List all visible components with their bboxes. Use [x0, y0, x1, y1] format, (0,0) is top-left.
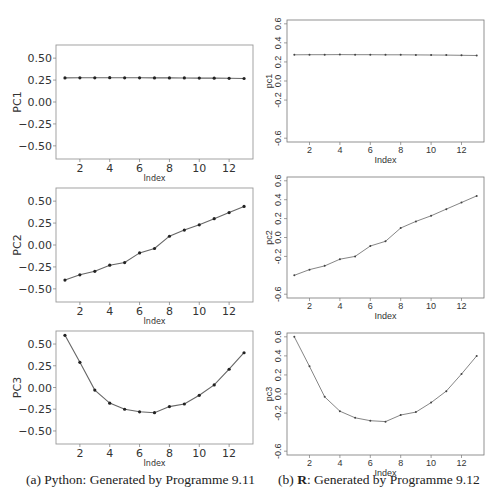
data-point — [385, 240, 387, 242]
data-point — [400, 414, 402, 416]
data-point — [430, 402, 432, 404]
y-axis-label: PC1 — [11, 91, 24, 112]
y-tick-label: 0.6 — [273, 175, 283, 188]
data-point — [430, 54, 432, 56]
x-tick-label: 10 — [192, 305, 206, 318]
data-point — [213, 217, 216, 220]
x-tick-label: 6 — [368, 301, 373, 311]
data-point — [93, 76, 96, 79]
chart-r-pc1: 24681012Index0.60.40.20.0-0.2-0.6pc1 — [264, 18, 484, 165]
y-tick-label: 0.00 — [28, 239, 53, 252]
y-tick-label: -0.2 — [273, 405, 283, 421]
y-tick-label: 0.25 — [28, 217, 53, 230]
y-tick-label: 0.0 — [273, 75, 283, 88]
chart-python-pc3: 24681012Index0.500.250.00−0.25−0.50PC3 — [11, 331, 253, 468]
y-tick-label: 0.4 — [273, 37, 283, 50]
y-tick-label: 0.2 — [273, 56, 283, 69]
x-axis-label: Index — [374, 311, 397, 321]
caption-r-bold: R — [297, 472, 307, 487]
y-tick-label: 0.50 — [28, 195, 53, 208]
x-tick-label: 2 — [307, 458, 312, 468]
x-tick-label: 4 — [106, 305, 113, 318]
y-tick-label: −0.25 — [18, 118, 52, 131]
data-point — [461, 202, 463, 204]
data-point — [228, 77, 231, 80]
x-tick-label: 8 — [166, 305, 173, 318]
plot-frame — [56, 188, 253, 302]
data-point — [78, 76, 81, 79]
x-tick-label: 6 — [136, 447, 143, 460]
data-point — [461, 54, 463, 56]
x-tick-label: 6 — [368, 458, 373, 468]
data-point — [339, 54, 341, 56]
x-tick-label: 10 — [192, 447, 206, 460]
data-point — [324, 396, 326, 398]
data-point — [293, 274, 295, 276]
data-point — [476, 195, 478, 197]
y-tick-label: 0.4 — [273, 350, 283, 363]
x-tick-label: 12 — [456, 145, 466, 155]
x-axis-label: Index — [374, 155, 397, 165]
y-tick-label: 0.00 — [28, 96, 53, 109]
data-point — [308, 365, 310, 367]
data-point — [242, 351, 245, 354]
data-point — [168, 76, 171, 79]
x-tick-label: 4 — [106, 162, 113, 175]
x-tick-label: 10 — [426, 458, 436, 468]
figure-canvas: 24681012Index0.500.250.00−0.25−0.50PC124… — [0, 0, 500, 498]
data-point — [63, 76, 66, 79]
chart-python-pc1: 24681012Index0.500.250.00−0.25−0.50PC1 — [11, 45, 253, 183]
x-tick-label: 12 — [222, 305, 236, 318]
data-point — [445, 54, 447, 56]
data-point — [108, 76, 111, 79]
data-point — [153, 76, 156, 79]
y-tick-label: 0.50 — [28, 52, 53, 65]
x-tick-label: 6 — [136, 162, 143, 175]
data-point — [445, 208, 447, 210]
x-tick-label: 10 — [426, 145, 436, 155]
x-tick-label: 4 — [337, 301, 342, 311]
data-point — [339, 410, 341, 412]
y-tick-label: 0.6 — [273, 331, 283, 344]
data-point — [476, 54, 478, 56]
y-tick-label: −0.50 — [18, 140, 52, 153]
y-tick-label: 0.00 — [28, 382, 53, 395]
plot-frame — [287, 333, 484, 455]
data-point — [213, 383, 216, 386]
y-tick-label: 0.4 — [273, 193, 283, 206]
data-point — [153, 247, 156, 250]
data-point — [168, 405, 171, 408]
data-point — [78, 273, 81, 276]
data-point — [63, 334, 66, 337]
data-point — [400, 227, 402, 229]
x-tick-label: 6 — [136, 305, 143, 318]
x-tick-label: 8 — [166, 162, 173, 175]
data-point — [78, 361, 81, 364]
data-point — [415, 54, 417, 56]
y-tick-label: 0.25 — [28, 360, 53, 373]
y-tick-label: -0.2 — [273, 92, 283, 108]
x-axis-label: Index — [143, 459, 165, 468]
chart-python-pc2: 24681012Index0.500.250.00−0.25−0.50PC2 — [11, 188, 253, 326]
chart-r-pc2: 24681012Index0.60.40.20.0-0.2-0.6pc2 — [264, 175, 484, 321]
caption-r-rest: : Generated by Programme 9.12 — [307, 472, 480, 487]
data-point — [183, 228, 186, 231]
data-point — [93, 270, 96, 273]
y-tick-label: -0.6 — [273, 130, 283, 146]
x-tick-label: 12 — [222, 447, 236, 460]
data-point — [354, 417, 356, 419]
data-point — [385, 421, 387, 423]
y-tick-label: 0.50 — [28, 338, 53, 351]
caption-r-prefix: (b) — [278, 472, 297, 487]
data-point — [324, 265, 326, 267]
data-point — [400, 54, 402, 56]
data-point — [242, 77, 245, 80]
x-tick-label: 10 — [426, 301, 436, 311]
y-tick-label: -0.6 — [273, 286, 283, 302]
x-tick-label: 2 — [76, 447, 83, 460]
data-point — [93, 389, 96, 392]
plot-frame — [287, 20, 484, 142]
y-tick-label: −0.50 — [18, 425, 52, 438]
y-tick-label: 0.6 — [273, 18, 283, 31]
data-point — [138, 410, 141, 413]
